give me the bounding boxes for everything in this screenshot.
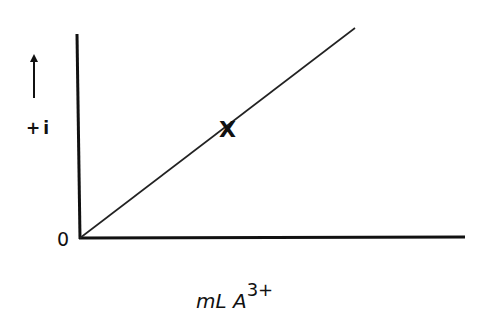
y-axis [77, 34, 80, 239]
x-axis-label: mL A3+ [196, 283, 273, 313]
origin-tick-label: 0 [57, 228, 69, 250]
data-line [80, 28, 355, 238]
data-point-marker: X [219, 117, 236, 142]
arrow-head [30, 54, 38, 62]
x-axis-label-main: mL A [196, 289, 247, 313]
x-axis [79, 237, 465, 238]
y-axis-label: +i [26, 118, 52, 138]
x-axis-label-superscript: 3+ [247, 279, 274, 300]
